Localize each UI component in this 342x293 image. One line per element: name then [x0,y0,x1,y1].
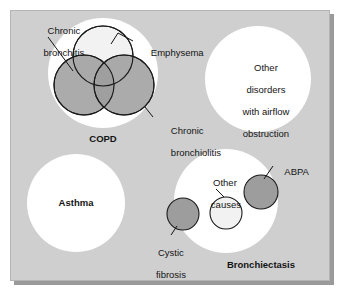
label-other-disorders-line3: with airflow [242,106,289,117]
label-abpa-line1: ABPA [284,166,309,177]
label-abpa: ABPA [269,155,309,188]
label-chronic-bronchiolitis-line1: Chronic [171,125,204,136]
label-other-disorders-line4: obstruction [243,128,289,139]
leader-chronic-bronchiolitis [145,107,153,117]
label-cystic-fibrosis-line2: fibrosis [156,269,186,280]
label-cystic-fibrosis: Cystic fibrosis [139,236,187,281]
label-cystic-fibrosis-line1: Cystic [158,247,184,258]
label-other-causes-line1: Other [213,177,237,188]
label-bronchiectasis: Bronchiectasis [209,259,313,270]
label-chronic-bronchiolitis: Chronic bronchiolitis [155,114,221,169]
diagram-panel: Chronic bronchitis Emphysema Chronic bro… [10,10,330,281]
label-other-causes: Other causes [195,166,239,221]
label-asthma: Asthma [44,197,108,208]
label-chronic-bronchitis-line2: bronchitis [44,47,85,58]
label-chronic-bronchitis-line1: Chronic [48,25,81,36]
label-copd: COPD [73,133,133,144]
label-other-causes-line2: causes [211,199,241,210]
label-other-disorders-line2: disorders [246,84,285,95]
label-other-disorders: Other disorders with airflow obstruction [213,51,303,150]
label-other-disorders-line1: Other [254,62,278,73]
diagram-figure: Chronic bronchitis Emphysema Chronic bro… [0,0,342,293]
label-chronic-bronchitis: Chronic bronchitis [25,14,87,69]
label-emphysema: Emphysema [135,36,204,69]
label-emphysema-line1: Emphysema [151,47,204,58]
